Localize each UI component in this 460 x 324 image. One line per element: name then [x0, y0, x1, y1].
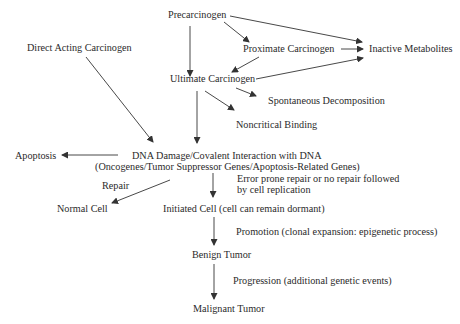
arrow-precarcinogen-to-inactive	[230, 16, 362, 42]
arrow-direct-to-dna	[86, 57, 153, 142]
node-dna-damage-line2: (Oncogenes/Tumor Suppressor Genes/Apopto…	[95, 161, 360, 173]
node-noncritical-binding: Noncritical Binding	[236, 119, 317, 131]
node-inactive-metabolites: Inactive Metabolites	[369, 43, 452, 55]
edge-label-error-prone-line2: by cell replication	[237, 184, 311, 196]
node-apoptosis: Apoptosis	[15, 150, 56, 162]
node-direct-acting-carcinogen: Direct Acting Carcinogen	[27, 42, 132, 54]
node-initiated-cell: Initiated Cell (cell can remain dormant)	[163, 203, 325, 215]
node-spontaneous-decomposition: Spontaneous Decomposition	[268, 95, 385, 107]
arrow-ultimate-to-noncritical	[205, 91, 234, 110]
arrow-ultimate-to-inactive	[256, 58, 363, 79]
edge-label-promotion: Promotion (clonal expansion: epigenetic …	[236, 226, 437, 238]
edge-label-repair: Repair	[102, 180, 129, 192]
node-ultimate-carcinogen: Ultimate Carcinogen	[170, 73, 255, 85]
node-benign-tumor: Benign Tumor	[192, 249, 251, 261]
edge-label-progression: Progression (additional genetic events)	[233, 275, 392, 287]
arrow-proximate-to-ultimate	[232, 57, 259, 72]
node-precarcinogen: Precarcinogen	[168, 9, 226, 21]
node-normal-cell: Normal Cell	[57, 203, 108, 215]
node-malignant-tumor: Malignant Tumor	[193, 303, 265, 315]
arrow-precarcinogen-to-proximate	[224, 22, 249, 42]
arrow-ultimate-to-spontaneous	[236, 88, 256, 96]
node-proximate-carcinogen: Proximate Carcinogen	[243, 43, 334, 55]
